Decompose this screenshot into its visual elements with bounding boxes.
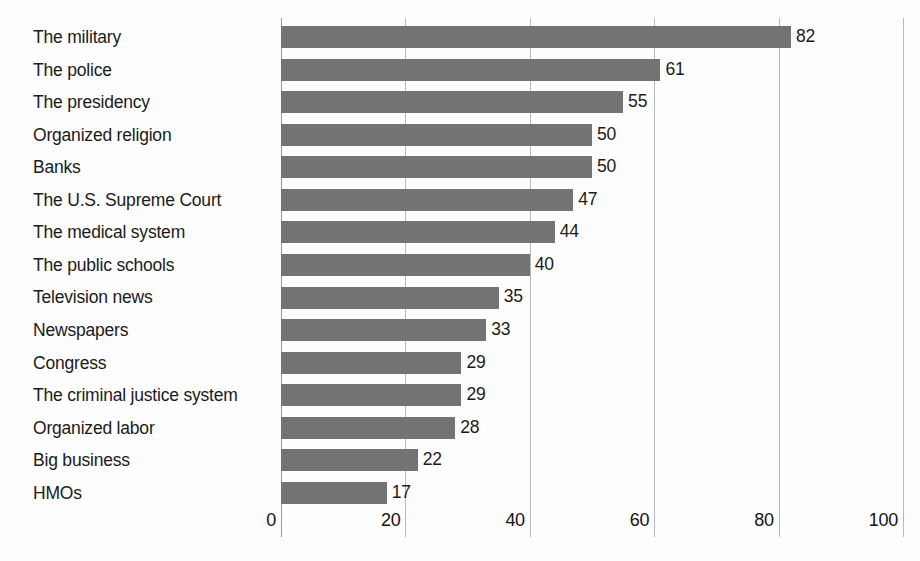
bar-row[interactable]: The criminal justice system29	[0, 379, 920, 412]
bar[interactable]	[281, 26, 791, 48]
category-label: Big business	[33, 444, 130, 477]
bar[interactable]	[281, 189, 573, 211]
bar-value-label: 55	[628, 86, 647, 119]
bar-value-label: 50	[597, 119, 616, 152]
bar[interactable]	[281, 319, 486, 341]
bar-row[interactable]: Newspapers33	[0, 314, 920, 347]
bar-value-label: 35	[504, 281, 523, 314]
bar-row[interactable]: Big business22	[0, 444, 920, 477]
bar[interactable]	[281, 221, 555, 243]
bar-row[interactable]: Organized labor28	[0, 412, 920, 445]
bar-value-label: 29	[466, 347, 485, 380]
bar-row[interactable]: The U.S. Supreme Court47	[0, 184, 920, 217]
bar-value-label: 82	[796, 21, 815, 54]
category-label: Banks	[33, 151, 81, 184]
bar-value-label: 50	[597, 151, 616, 184]
bar[interactable]	[281, 417, 455, 439]
x-tick-label-0: 0	[266, 510, 281, 531]
bar-value-label: 29	[466, 379, 485, 412]
category-label: The public schools	[33, 249, 174, 282]
bar-row[interactable]: Banks50	[0, 151, 920, 184]
x-tick-label-40: 40	[505, 510, 529, 531]
plot-area: The military82The police61The presidency…	[0, 0, 920, 561]
bar-row[interactable]: The police61	[0, 54, 920, 87]
category-label: Congress	[33, 347, 106, 380]
x-tick-label-60: 60	[630, 510, 654, 531]
bar-row[interactable]: HMOs17	[0, 477, 920, 510]
bar-value-label: 28	[460, 412, 479, 445]
bar-value-label: 22	[423, 444, 442, 477]
bar[interactable]	[281, 384, 461, 406]
bar-value-label: 40	[535, 249, 554, 282]
bar[interactable]	[281, 449, 418, 471]
category-label: The police	[33, 54, 112, 87]
bar[interactable]	[281, 352, 461, 374]
category-label: Television news	[33, 281, 153, 314]
x-tick-label-100: 100	[869, 510, 903, 531]
bar-value-label: 61	[665, 54, 684, 87]
bar-value-label: 44	[560, 216, 579, 249]
bar[interactable]	[281, 59, 660, 81]
category-label: The medical system	[33, 216, 185, 249]
bar-value-label: 47	[578, 184, 597, 217]
bar-value-label: 33	[491, 314, 510, 347]
bar-value-label: 17	[392, 477, 411, 510]
bar[interactable]	[281, 124, 592, 146]
category-label: The U.S. Supreme Court	[33, 184, 221, 217]
category-label: The presidency	[33, 86, 150, 119]
bar-row[interactable]: The presidency55	[0, 86, 920, 119]
bar-row[interactable]: Congress29	[0, 347, 920, 380]
x-axis: 020406080100	[0, 510, 920, 540]
bar[interactable]	[281, 91, 623, 113]
category-label: HMOs	[33, 477, 82, 510]
category-label: Organized labor	[33, 412, 155, 445]
bar[interactable]	[281, 254, 530, 276]
bar-chart: The military82The police61The presidency…	[0, 0, 920, 561]
bar-row[interactable]: The military82	[0, 21, 920, 54]
bar-row[interactable]: Television news35	[0, 281, 920, 314]
bar-row[interactable]: Organized religion50	[0, 119, 920, 152]
category-label: Organized religion	[33, 119, 171, 152]
category-label: Newspapers	[33, 314, 128, 347]
bar[interactable]	[281, 156, 592, 178]
x-tick-label-20: 20	[381, 510, 405, 531]
category-label: The military	[33, 21, 121, 54]
bar-row[interactable]: The medical system44	[0, 216, 920, 249]
category-label: The criminal justice system	[33, 379, 238, 412]
bar[interactable]	[281, 287, 499, 309]
x-tick-label-80: 80	[754, 510, 778, 531]
bar-row[interactable]: The public schools40	[0, 249, 920, 282]
bar[interactable]	[281, 482, 387, 504]
